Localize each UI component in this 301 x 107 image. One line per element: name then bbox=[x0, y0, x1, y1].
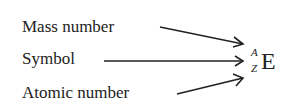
nuclide-notation: A Z E bbox=[250, 44, 290, 80]
atomic-number-arrow bbox=[177, 78, 243, 94]
element-symbol: E bbox=[261, 48, 276, 75]
mass-number-superscript: A bbox=[251, 46, 258, 58]
atomic-number-subscript: Z bbox=[251, 62, 257, 74]
mass-number-arrow bbox=[160, 27, 243, 44]
